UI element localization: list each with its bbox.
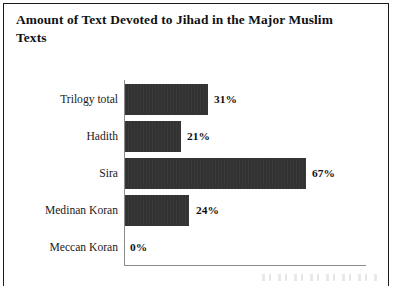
plot-area: Trilogy total 31% Hadith 21% Sira 67% Me… — [0, 0, 401, 286]
bar-row: Meccan Koran 0% — [0, 229, 401, 266]
bar-row: Medinan Koran 24% — [0, 192, 401, 229]
bar-trilogy-total — [125, 84, 208, 115]
category-label: Hadith — [0, 118, 118, 155]
category-label: Meccan Koran — [0, 229, 118, 266]
bar-row: Trilogy total 31% — [0, 81, 401, 118]
bar-value-label: 0% — [130, 229, 147, 266]
bar-value-label: 21% — [187, 118, 210, 155]
scan-artifact — [262, 274, 380, 281]
bar-medinan-koran — [125, 195, 189, 226]
figure-container: Amount of Text Devoted to Jihad in the M… — [0, 0, 401, 286]
bar-row: Hadith 21% — [0, 118, 401, 155]
bar-value-label: 31% — [214, 81, 237, 118]
bar-hadith — [125, 121, 181, 152]
category-label: Sira — [0, 155, 118, 192]
bar-sira — [125, 158, 306, 189]
category-label: Trilogy total — [0, 81, 118, 118]
bar-row: Sira 67% — [0, 155, 401, 192]
bar-value-label: 24% — [196, 192, 219, 229]
category-label: Medinan Koran — [0, 192, 118, 229]
bar-value-label: 67% — [312, 155, 335, 192]
